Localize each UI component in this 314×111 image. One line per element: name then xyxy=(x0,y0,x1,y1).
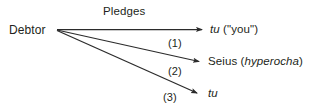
target-node-2-plain: Seius ( xyxy=(208,55,245,67)
target-node-1: tu ("you") xyxy=(210,24,258,36)
step-label-1: (1) xyxy=(168,38,182,49)
step-label-3: (3) xyxy=(163,92,177,103)
target-node-3: tu xyxy=(208,88,218,100)
target-node-3-italic: tu xyxy=(208,87,218,99)
pledges-diagram: Pledges Debtor tu ("you") Seius (hyperoc… xyxy=(0,0,314,111)
diagram-title: Pledges xyxy=(103,6,145,18)
source-node-debtor: Debtor xyxy=(9,24,46,36)
target-node-2-italic: hyperocha xyxy=(245,55,300,67)
target-node-1-rest: ("you") xyxy=(220,23,258,35)
target-node-2-rest: ) xyxy=(299,55,303,67)
step-label-2: (2) xyxy=(168,66,182,77)
target-node-2: Seius (hyperocha) xyxy=(208,56,303,68)
target-node-1-italic: tu xyxy=(210,23,220,35)
